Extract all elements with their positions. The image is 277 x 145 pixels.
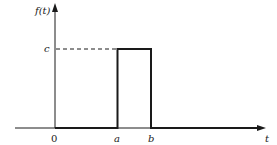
x-axis-label: t [265, 133, 270, 144]
pulse-end-label: b [148, 133, 154, 144]
y-axis-label: f(t) [34, 5, 51, 16]
chart-canvas: f(t) c 0 a b t [0, 0, 277, 145]
level-c-label: c [44, 43, 50, 54]
rectangular-pulse-chart: f(t) c 0 a b t [0, 0, 277, 145]
y-axis-arrow-icon [52, 3, 58, 12]
pulse-series-line [55, 49, 262, 128]
origin-label: 0 [51, 133, 57, 144]
pulse-start-label: a [114, 133, 120, 144]
